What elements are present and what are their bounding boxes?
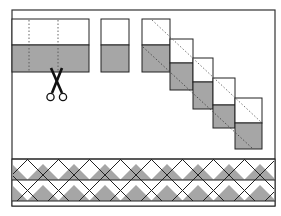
finished-border [0,159,281,206]
quilt-diagram [0,0,281,216]
cut-segment [101,19,129,72]
strip-set [12,19,89,72]
